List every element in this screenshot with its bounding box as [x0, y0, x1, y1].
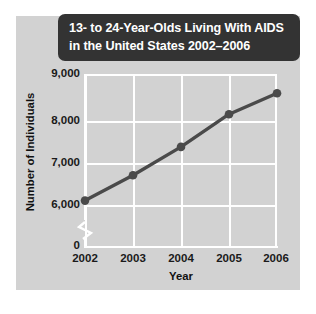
x-axis-title: Year	[85, 270, 277, 282]
data-point-2004	[177, 143, 186, 152]
data-point-2003	[129, 171, 138, 180]
data-point-2006	[273, 89, 282, 98]
axis-break-zigzag	[79, 222, 91, 239]
x-tick-2003: 2003	[109, 252, 157, 264]
x-tick-2005: 2005	[205, 252, 253, 264]
y-tick-0: 0	[32, 239, 80, 251]
data-point-2005	[225, 110, 234, 119]
y-tick-7000: 7,000	[32, 156, 80, 168]
y-tick-6000: 6,000	[32, 198, 80, 210]
y-tick-9000: 9,000	[32, 67, 80, 79]
x-tick-2004: 2004	[157, 252, 205, 264]
y-tick-8000: 8,000	[32, 114, 80, 126]
x-tick-2002: 2002	[61, 252, 109, 264]
x-tick-2006: 2006	[252, 252, 300, 264]
data-point-2002	[81, 196, 90, 205]
y-axis-title: Number of Individuals	[24, 77, 36, 227]
figure: 13- to 24-Year-Olds Living With AIDS in …	[0, 0, 316, 314]
